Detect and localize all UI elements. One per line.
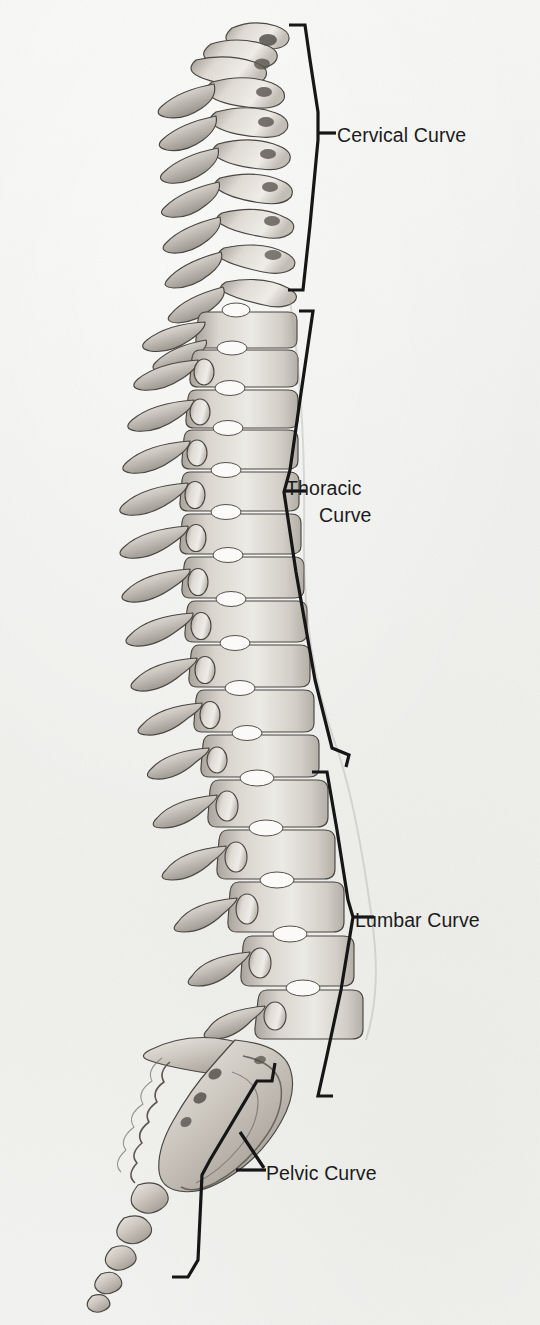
lumbar-bracket xyxy=(312,772,374,1096)
label-thoracic-line1: Thoracic xyxy=(286,477,362,499)
spine-anatomy-figure: Cervical Curve ThoracicCurve Lumbar Curv… xyxy=(0,0,540,1325)
label-thoracic-curve: ThoracicCurve xyxy=(286,475,372,529)
thoracic-bracket xyxy=(284,311,349,767)
label-cervical-curve: Cervical Curve xyxy=(337,122,466,148)
cervical-bracket xyxy=(288,25,336,290)
pelvic-bracket xyxy=(172,1063,275,1277)
curve-brackets xyxy=(0,0,540,1325)
label-lumbar-curve: Lumbar Curve xyxy=(355,907,480,933)
label-thoracic-line2: Curve xyxy=(286,502,372,529)
label-pelvic-curve: Pelvic Curve xyxy=(266,1160,377,1186)
